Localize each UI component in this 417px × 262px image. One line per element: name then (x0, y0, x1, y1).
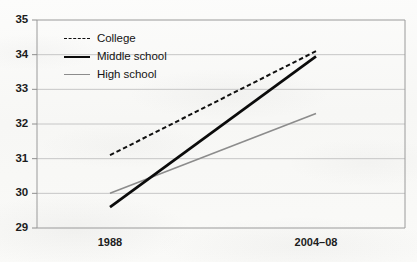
y-tick-marks (32, 20, 37, 228)
legend: College Middle school High school (64, 29, 167, 83)
line-chart: 35 34 33 32 31 30 29 1988 2004–08 Colleg… (0, 0, 417, 262)
y-tick-label-30: 30 (2, 186, 28, 198)
y-tick-label-33: 33 (2, 82, 28, 94)
legend-item-high-school: High school (64, 65, 167, 83)
legend-label-high-school: High school (97, 68, 157, 80)
x-tick-label-2004-08: 2004–08 (281, 236, 351, 248)
y-tick-label-35: 35 (2, 13, 28, 25)
plot-area (0, 0, 417, 262)
y-tick-label-32: 32 (2, 117, 28, 129)
x-tick-label-1988: 1988 (75, 236, 145, 248)
y-tick-label-34: 34 (2, 48, 28, 60)
legend-item-college: College (64, 29, 167, 47)
y-tick-label-29: 29 (2, 221, 28, 233)
series-line-high-school (110, 114, 316, 194)
legend-swatch-college-icon (64, 32, 90, 44)
legend-item-middle-school: Middle school (64, 47, 167, 65)
legend-swatch-middle-school-icon (64, 50, 90, 62)
legend-label-college: College (97, 32, 136, 44)
y-tick-label-31: 31 (2, 152, 28, 164)
legend-label-middle-school: Middle school (97, 50, 167, 62)
legend-swatch-high-school-icon (64, 68, 90, 80)
